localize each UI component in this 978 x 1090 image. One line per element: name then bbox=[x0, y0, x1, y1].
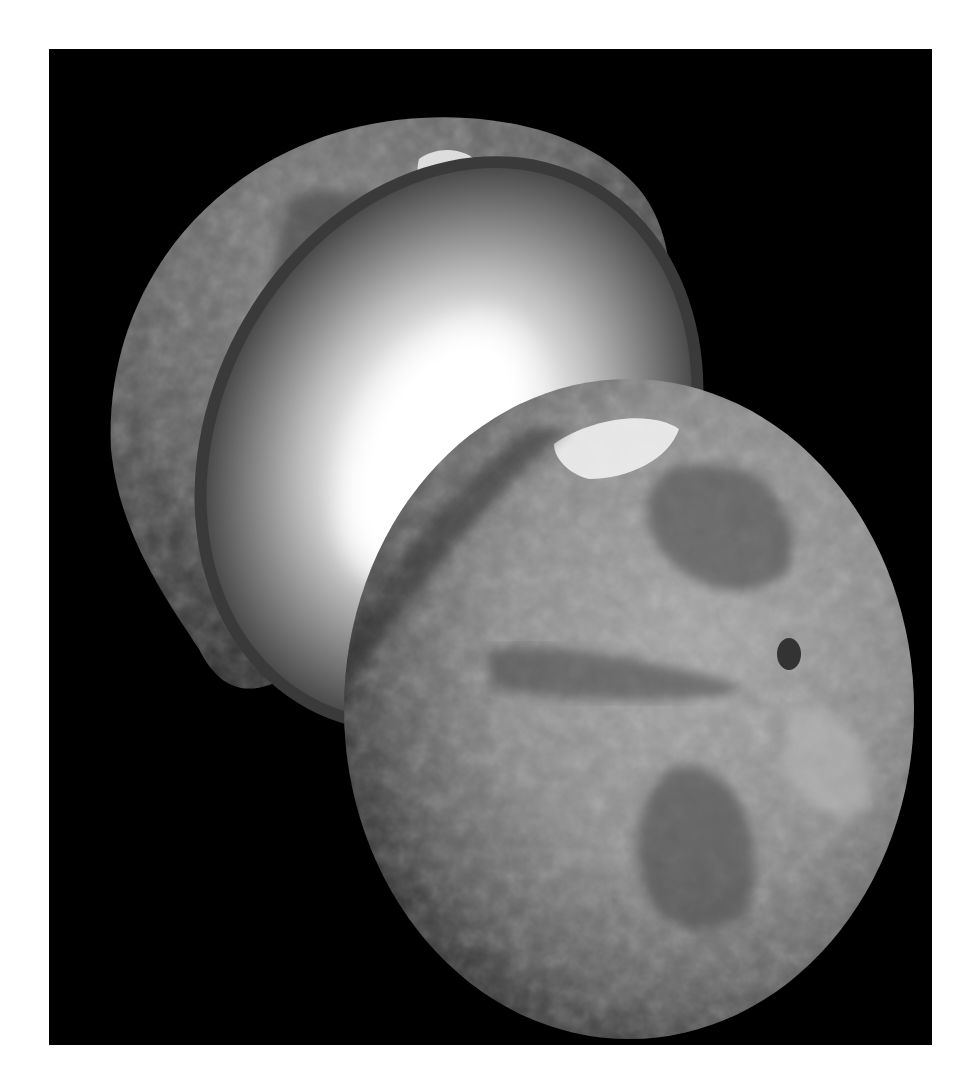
dark-spot bbox=[777, 638, 801, 670]
image-panel bbox=[49, 49, 932, 1045]
mars-cutaway-illustration bbox=[49, 49, 932, 1045]
